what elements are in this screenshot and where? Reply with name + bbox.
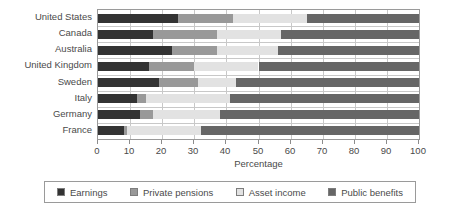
bar-row xyxy=(98,94,419,103)
bar-segment xyxy=(259,62,420,71)
legend-item[interactable]: Asset income xyxy=(236,187,306,198)
bar-segment xyxy=(98,94,137,103)
bar-segment xyxy=(217,30,281,39)
bar-segment xyxy=(281,30,419,39)
bar-segment xyxy=(198,78,237,87)
x-axis-tick xyxy=(258,140,259,144)
bar-segment xyxy=(159,78,198,87)
bar-segment xyxy=(178,14,233,23)
bar-segment xyxy=(98,110,140,119)
bar-segment xyxy=(153,30,217,39)
category-label: France xyxy=(0,125,92,135)
legend-label: Asset income xyxy=(249,187,306,198)
bar-segment xyxy=(230,94,419,103)
bar-segment xyxy=(98,62,149,71)
x-axis-tick-label: 10 xyxy=(114,145,144,156)
category-label: United States xyxy=(0,12,92,22)
x-axis-tick-label: 80 xyxy=(339,145,369,156)
bar-segment xyxy=(233,14,307,23)
legend-label: Private pensions xyxy=(143,187,213,198)
legend-label: Earnings xyxy=(70,187,108,198)
bar-row xyxy=(98,14,419,23)
row-separator xyxy=(98,75,419,76)
category-label: Sweden xyxy=(0,77,92,87)
x-axis-tick-label: 90 xyxy=(371,145,401,156)
category-label: United Kingdom xyxy=(0,60,92,70)
legend-swatch-asset-income xyxy=(236,188,244,196)
category-label: Canada xyxy=(0,28,92,38)
category-label: Italy xyxy=(0,93,92,103)
x-axis-tick-label: 40 xyxy=(210,145,240,156)
x-axis-title: Percentage xyxy=(97,158,420,169)
row-separator xyxy=(98,91,419,92)
legend-swatch-earnings xyxy=(57,188,65,196)
bar-segment xyxy=(127,126,201,135)
row-separator xyxy=(98,42,419,43)
row-separator xyxy=(98,26,419,27)
x-axis-tick xyxy=(225,140,226,144)
bar-segment xyxy=(137,94,147,103)
bar-segment xyxy=(98,14,178,23)
legend-item[interactable]: Earnings xyxy=(57,187,108,198)
x-axis-tick xyxy=(322,140,323,144)
bar-row xyxy=(98,62,419,71)
legend-item[interactable]: Private pensions xyxy=(130,187,213,198)
bar-segment xyxy=(98,46,172,55)
x-axis-tick xyxy=(386,140,387,144)
category-axis-labels: United StatesCanadaAustraliaUnited Kingd… xyxy=(0,9,92,140)
x-axis-tick xyxy=(129,140,130,144)
bar-segment xyxy=(98,126,124,135)
legend: EarningsPrivate pensionsAsset incomePubl… xyxy=(44,181,416,203)
x-axis-tick xyxy=(290,140,291,144)
legend-item[interactable]: Public benefits xyxy=(328,187,403,198)
bar-segment xyxy=(217,46,278,55)
bar-row xyxy=(98,78,419,87)
bar-segment xyxy=(220,110,419,119)
legend-label: Public benefits xyxy=(341,187,403,198)
bar-segment xyxy=(98,30,153,39)
x-axis-tick-label: 20 xyxy=(146,145,176,156)
category-label: Germany xyxy=(0,109,92,119)
x-axis-tick-label: 60 xyxy=(275,145,305,156)
x-axis-tick xyxy=(418,140,419,144)
x-axis-tick-label: 50 xyxy=(243,145,273,156)
stacked-bar-chart: United StatesCanadaAustraliaUnited Kingd… xyxy=(0,0,451,212)
plot-area xyxy=(97,9,420,140)
bar-segment xyxy=(201,126,419,135)
bar-segment xyxy=(194,62,258,71)
x-axis-tick xyxy=(354,140,355,144)
x-axis-tick-label: 30 xyxy=(178,145,208,156)
x-axis-tick xyxy=(193,140,194,144)
bar-segment xyxy=(278,46,419,55)
x-axis-tick-label: 100 xyxy=(403,145,433,156)
bar-segment xyxy=(172,46,217,55)
bar-segment xyxy=(307,14,419,23)
bar-segment xyxy=(149,62,194,71)
row-separator xyxy=(98,58,419,59)
legend-swatch-public-benefits xyxy=(328,188,336,196)
bar-segment xyxy=(140,110,153,119)
bar-segment xyxy=(236,78,419,87)
x-axis-tick xyxy=(97,140,98,144)
bar-row xyxy=(98,110,419,119)
row-separator xyxy=(98,123,419,124)
x-axis-tick xyxy=(161,140,162,144)
bar-segment xyxy=(98,78,159,87)
bar-row xyxy=(98,126,419,135)
bar-row xyxy=(98,30,419,39)
legend-swatch-private-pensions xyxy=(130,188,138,196)
bar-row xyxy=(98,46,419,55)
x-axis-tick-label: 70 xyxy=(307,145,337,156)
bar-segment xyxy=(153,110,220,119)
category-label: Australia xyxy=(0,44,92,54)
bar-segment xyxy=(146,94,229,103)
row-separator xyxy=(98,107,419,108)
x-axis-tick-labels: 0102030405060708090100 xyxy=(97,145,420,157)
x-axis-tick-label: 0 xyxy=(82,145,112,156)
